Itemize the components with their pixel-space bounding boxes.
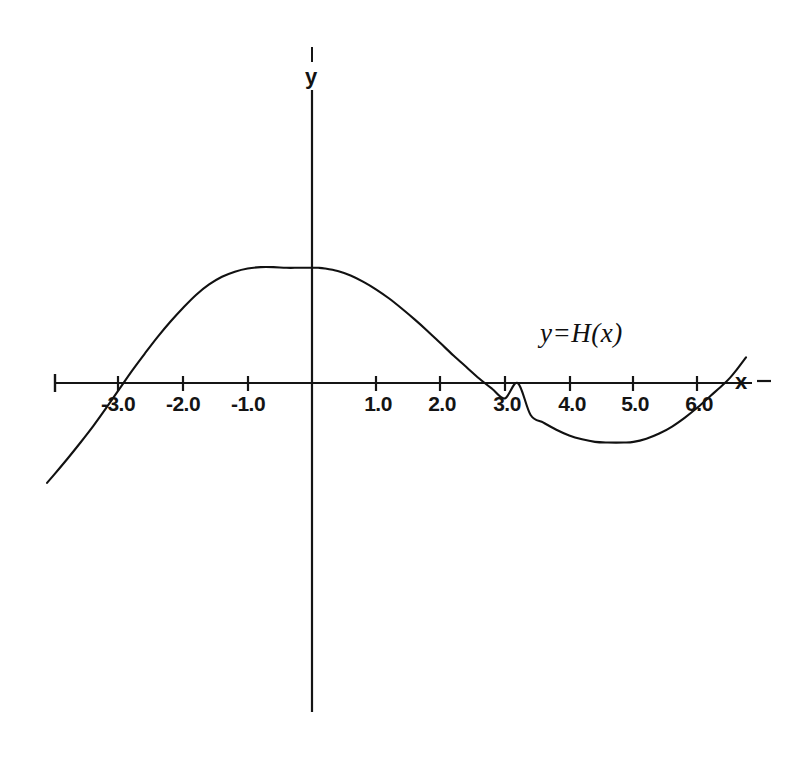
x-tick-label: 3.0 xyxy=(493,392,521,416)
x-tick-label: 1.0 xyxy=(364,392,392,416)
chart-figure: -3.0 -2.0 -1.0 1.0 2.0 3.0 4.0 5.0 6.0 y… xyxy=(0,0,795,768)
chart-plot-area xyxy=(0,0,795,768)
x-tick-label: 5.0 xyxy=(621,392,649,416)
x-tick-label: -2.0 xyxy=(166,392,200,416)
x-tick-label: 6.0 xyxy=(685,392,713,416)
x-tick-label: 2.0 xyxy=(428,392,456,416)
x-axis-label: x xyxy=(735,369,747,395)
curve-equation-label: y=H(x) xyxy=(540,318,623,349)
x-tick-label: -1.0 xyxy=(231,392,265,416)
function-curve xyxy=(47,267,746,483)
x-tick-label: -3.0 xyxy=(101,392,135,416)
y-axis-label: y xyxy=(305,64,317,90)
x-tick-label: 4.0 xyxy=(558,392,586,416)
